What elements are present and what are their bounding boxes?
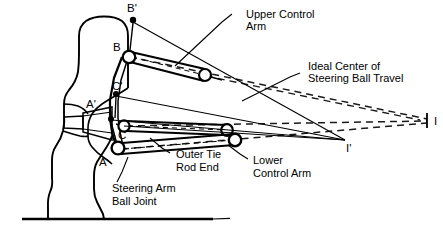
joint-B [123, 51, 135, 63]
label-upper-control-arm-line2: Arm [246, 20, 266, 32]
joint-A-steering-arm-ball-joint [112, 142, 125, 155]
lower-arm-inner-pivot [229, 134, 241, 146]
label-lower-control-arm-line1: Lower [253, 154, 283, 166]
label-outer-tie-rod-line1: Outer Tie [176, 148, 221, 160]
upper-control-arm [123, 51, 222, 81]
label-point-A-prime: A' [86, 98, 96, 110]
label-point-I: I [434, 115, 437, 127]
label-point-B: B [113, 41, 121, 53]
label-upper-control-arm-line1: Upper Control [246, 8, 314, 20]
label-point-C-prime: C' [112, 80, 123, 92]
label-point-C: C [118, 129, 126, 141]
ground-line [22, 218, 230, 219]
leader-lower-control-arm [228, 145, 248, 159]
diagram-canvas: Upper Control Arm Ideal Center of Steeri… [0, 0, 443, 236]
label-lower-control-arm-line2: Control Arm [253, 167, 311, 179]
leader-upper-control-arm [175, 14, 232, 66]
label-point-I-prime: I' [346, 142, 351, 154]
upper-arm-inner-pivot [199, 69, 211, 81]
label-point-B-prime: B' [127, 2, 137, 14]
label-outer-tie-rod-line2: Rod End [176, 161, 219, 173]
label-point-A: A [99, 156, 107, 168]
label-ideal-center-line2: Steering Ball Travel [308, 72, 403, 84]
suspension-geometry-diagram: Upper Control Arm Ideal Center of Steeri… [0, 0, 443, 236]
label-steering-arm-ball-joint-line1: Steering Arm [112, 182, 176, 194]
leader-steering-arm-ball-joint [117, 157, 128, 182]
label-ideal-center-line1: Ideal Center of [308, 60, 381, 72]
tie-rod [118, 120, 232, 135]
label-steering-arm-ball-joint-line2: Ball Joint [112, 195, 157, 207]
